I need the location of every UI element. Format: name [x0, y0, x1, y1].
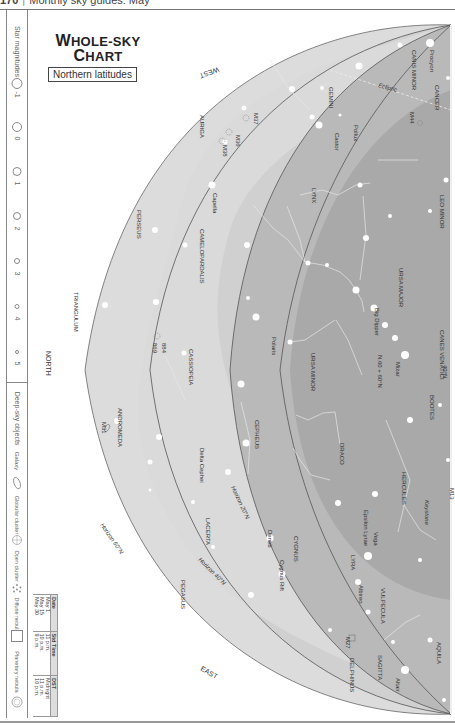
- legend-planetary-label: Planetary nebula: [14, 651, 20, 692]
- label-cepheus: CEPHEUS: [254, 420, 260, 449]
- label-m37: M37: [253, 113, 259, 125]
- legend-diffuse-label: Diffuse nebula: [14, 597, 20, 632]
- header-std-time: Std Time: [51, 631, 58, 676]
- label-pollux: Pollux: [353, 125, 359, 141]
- footer-rule: [0, 721, 455, 723]
- label-epsilon-lyrae: Epsilon Lyrae: [363, 510, 369, 547]
- table-row: May 1 11 p.m. Midnight: [45, 595, 51, 717]
- star-magnitude-circle-icon: [13, 167, 22, 176]
- magnitude-label: 3: [14, 272, 21, 276]
- label-bootes: BOOTES: [429, 395, 435, 420]
- cell-date: May 1: [45, 595, 51, 632]
- label-procyon: Procyon: [429, 50, 435, 72]
- label-horizon-60: Horizon 60°N: [99, 522, 125, 555]
- label-hercules: HERCULES: [401, 472, 407, 505]
- label-m31: M31: [101, 422, 107, 434]
- label-big-dipper: Big Dipper: [374, 308, 380, 336]
- title-block: WHOLE-SKY CHART Northern latitudes: [48, 34, 148, 82]
- label-capella: Capella: [212, 193, 218, 214]
- label-pegasus: PEGASUS: [180, 580, 186, 609]
- label-ursa-major: URSA MAJOR: [398, 268, 404, 308]
- open-cluster-icon: [11, 583, 23, 595]
- legend-open-cluster: Open cluster: [7, 555, 27, 600]
- label-north: NORTH: [45, 351, 52, 376]
- label-lyra: LYRA: [350, 555, 356, 570]
- deep-sky-heading: Deep-sky objects: [14, 392, 21, 446]
- label-deneb: Deneb: [267, 530, 273, 548]
- cell-std-time: 11 p.m.: [45, 631, 51, 676]
- cell-date: May 30: [34, 595, 40, 632]
- label-triangulum: TRIANGULUM: [73, 292, 79, 332]
- label-ursa-minor: URSA MINOR: [310, 353, 316, 392]
- label-ngc869: 869: [152, 343, 158, 354]
- label-cancer: CANCER: [434, 85, 440, 111]
- magnitude-label: 5: [14, 362, 21, 366]
- label-lynx: LYNX: [311, 188, 317, 203]
- planetary-nebula-icon: [10, 695, 24, 709]
- label-cassiopeia: CASSIOPEIA: [188, 349, 194, 385]
- label-cygnus-rift: Cygnus Rift: [279, 560, 285, 591]
- label-m38: M38: [222, 145, 228, 157]
- label-perseus: PERSEUS: [136, 210, 142, 239]
- cell-std-time: 9 p.m.: [34, 631, 40, 676]
- label-andromeda: ANDROMEDA: [117, 408, 123, 447]
- timetable-header-row: Date Std Time DST: [51, 595, 58, 717]
- timetable-table: Date Std Time DST May 1 11 p.m. Midnight…: [34, 594, 59, 717]
- observation-timetable: Date Std Time DST May 1 11 p.m. Midnight…: [37, 594, 58, 717]
- legend-galaxy-label: Galaxy: [14, 452, 20, 471]
- label-polaris: Polaris: [271, 337, 277, 355]
- chart-title: WHOLE-SKY CHART: [48, 34, 148, 64]
- star-magnitude-circle-icon: [12, 78, 23, 89]
- legend-divider: [7, 382, 27, 383]
- magnitude-item: 1: [7, 165, 27, 195]
- label-delta-cephei: Delta Cephei: [199, 448, 205, 483]
- legend-sidebar: Star magnitudes -1 0 1 2 3 4 5 Deep-sky …: [6, 10, 28, 718]
- title-line2: HART: [85, 49, 122, 64]
- subtitle-northern-latitudes: Northern latitudes: [48, 67, 137, 82]
- legend-open-label: Open cluster: [14, 550, 20, 581]
- magnitude-item: -1: [7, 76, 27, 106]
- diffuse-nebula-square-icon: [11, 630, 23, 642]
- label-sagitta: SAGITTA: [377, 655, 383, 680]
- star-magnitude-circle-icon: [13, 212, 21, 220]
- label-m27: M27: [345, 637, 351, 649]
- legend-planetary-nebula: Planetary nebula: [7, 655, 27, 715]
- label-cygnus: CYGNUS: [293, 536, 299, 562]
- label-auriga: AURIGA: [199, 115, 205, 138]
- magnitude-label: 2: [14, 227, 21, 231]
- label-zenith-60: N.60 + 60°N: [377, 355, 383, 388]
- table-row: May 30 9 p.m. 10 p.m.: [34, 595, 40, 717]
- star-magnitude-circle-icon: [14, 258, 20, 264]
- star-magnitude-circle-icon: [15, 350, 19, 354]
- title-initial-c: C: [73, 47, 85, 64]
- label-ngc884: 884: [161, 343, 167, 354]
- label-m44: M44: [409, 112, 415, 124]
- magnitude-label: -1: [14, 91, 21, 97]
- cell-dst: Midnight: [45, 676, 51, 717]
- magnitude-label: 1: [14, 182, 21, 186]
- label-altair: Altair: [395, 678, 401, 692]
- star-magnitudes-heading: Star magnitudes: [14, 26, 21, 77]
- label-castor: Castor: [334, 133, 340, 151]
- magnitude-item: 3: [7, 255, 27, 285]
- title-initial-w: W: [56, 32, 71, 49]
- legend-diffuse-nebula: Diffuse nebula: [7, 602, 27, 652]
- header-dst: DST: [51, 676, 58, 717]
- galaxy-ellipse-icon: [11, 476, 23, 490]
- label-albireo: Albireo: [358, 585, 364, 604]
- label-keystone: Keystone: [424, 500, 430, 526]
- label-gemini: GEMINI: [328, 87, 334, 109]
- label-m36: M36: [235, 135, 241, 147]
- star-magnitude-circle-icon: [12, 122, 22, 132]
- magnitude-item: 4: [7, 300, 27, 330]
- legend-globular-label: Globular cluster: [14, 496, 20, 535]
- label-west: WEST: [198, 66, 220, 80]
- cell-dst: 10 p.m.: [34, 676, 40, 717]
- magnitude-item: 5: [7, 345, 27, 375]
- whole-sky-chart: WEST NORTH EAST Ecliptic Horizon 20°N Ho…: [0, 0, 455, 726]
- label-leo-minor: LEO MINOR: [439, 195, 445, 229]
- label-camelopardalis: CAMELOPARDALIS: [199, 229, 205, 284]
- magnitude-label: 0: [14, 137, 21, 141]
- header-date: Date: [51, 595, 58, 632]
- label-delphinus: DELPHINUS: [349, 658, 355, 692]
